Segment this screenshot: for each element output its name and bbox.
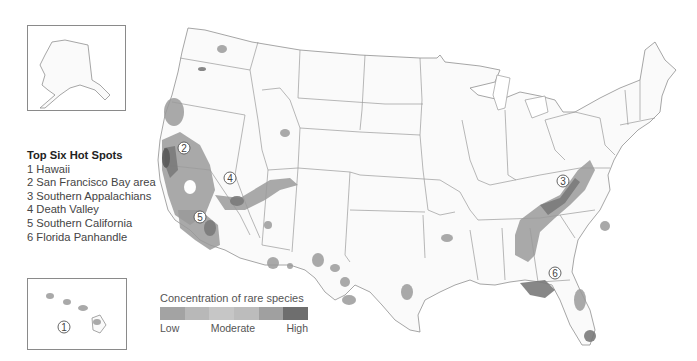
legend-item: 6 Florida Panhandle [27, 231, 156, 245]
legend-title: Top Six Hot Spots [27, 149, 156, 163]
scale-swatch [209, 307, 234, 320]
scale-swatch [185, 307, 210, 320]
legend-item: 4 Death Valley [27, 203, 156, 217]
legend-item: 1 Hawaii [27, 163, 156, 177]
scale-label-low: Low [160, 322, 179, 334]
svg-text:6: 6 [552, 268, 558, 279]
marker-3: 3 [557, 175, 569, 187]
scale-swatch [234, 307, 259, 320]
svg-text:4: 4 [227, 173, 233, 184]
hotspot-legend: Top Six Hot Spots 1 Hawaii 2 San Francis… [27, 149, 156, 244]
legend-item: 3 Southern Appalachians [27, 190, 156, 204]
svg-text:5: 5 [197, 212, 203, 223]
scale-swatch [259, 307, 284, 320]
hawaii-inset [27, 278, 127, 350]
svg-text:2: 2 [181, 143, 187, 154]
scale-swatch [283, 307, 308, 320]
concentration-scale: Concentration of rare species Low Modera… [160, 292, 308, 334]
svg-text:3: 3 [560, 176, 566, 187]
scale-title: Concentration of rare species [160, 292, 308, 304]
marker-6: 6 [549, 267, 561, 279]
legend-item: 5 Southern California [27, 217, 156, 231]
scale-label-moderate: Moderate [211, 322, 255, 334]
marker-5: 5 [194, 211, 206, 223]
marker-4: 4 [224, 172, 236, 184]
scale-label-high: High [286, 322, 308, 334]
scale-bar [160, 307, 308, 320]
scale-swatch [160, 307, 185, 320]
alaska-inset [27, 25, 126, 111]
legend-item: 2 San Francisco Bay area [27, 176, 156, 190]
marker-2: 2 [178, 142, 190, 154]
